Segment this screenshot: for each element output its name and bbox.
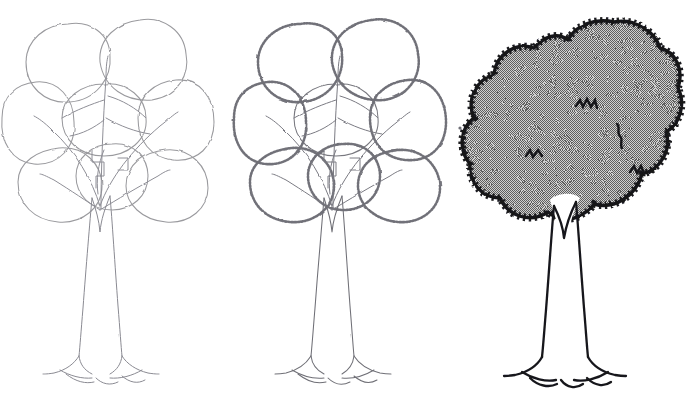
panel-3-hit-area[interactable]: Stage 3 — inked outline with halftone sh… [464,0,696,414]
panel-3-label: Stage 3 — inked outline with halftone sh… [464,0,465,1]
panel-2-hit-area[interactable]: Stage 2 — serrated leaf edges added [232,0,464,414]
panel-1-hit-area[interactable]: Stage 1 — light pencil blob construction [0,0,232,414]
panel-2-label: Stage 2 — serrated leaf edges added [232,0,233,1]
panel-1-label: Stage 1 — light pencil blob construction [0,0,1,1]
